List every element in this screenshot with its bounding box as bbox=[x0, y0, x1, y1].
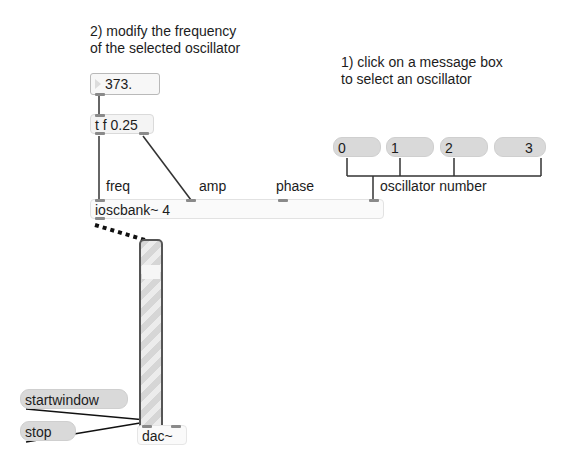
comment-step2-line2: of the selected oscillator bbox=[90, 40, 240, 57]
message-label: 1 bbox=[391, 140, 399, 156]
inlet[interactable] bbox=[95, 114, 105, 117]
outlet-left[interactable] bbox=[95, 132, 105, 135]
trigger-label: t f 0.25 bbox=[95, 117, 138, 133]
message-box-osc-2[interactable]: 2 bbox=[440, 137, 488, 157]
inlet-left[interactable] bbox=[142, 425, 152, 428]
message-box-stop[interactable]: stop bbox=[20, 421, 76, 441]
dac-label: dac~ bbox=[142, 428, 173, 444]
message-label: startwindow bbox=[25, 392, 99, 408]
comment-step1-line1: 1) click on a message box bbox=[341, 54, 503, 71]
dac-object[interactable]: dac~ bbox=[137, 425, 187, 445]
message-box-osc-0[interactable]: 0 bbox=[333, 137, 381, 157]
message-label: 0 bbox=[338, 140, 346, 156]
gain-slider[interactable] bbox=[139, 239, 163, 433]
outlet-right[interactable] bbox=[139, 132, 149, 135]
number-box-value: 373. bbox=[105, 74, 132, 94]
comment-oscillator-number: oscillator number bbox=[380, 178, 487, 195]
inlet-oscillator-number[interactable] bbox=[369, 199, 379, 202]
ioscbank-label: ioscbank~ 4 bbox=[95, 202, 170, 218]
message-box-startwindow[interactable]: startwindow bbox=[20, 389, 128, 409]
inlet-freq[interactable] bbox=[95, 199, 105, 202]
comment-phase: phase bbox=[276, 178, 314, 195]
number-box-triangle-icon bbox=[95, 79, 101, 89]
comment-freq: freq bbox=[106, 178, 130, 195]
trigger-object[interactable]: t f 0.25 bbox=[90, 114, 154, 134]
inlet-right[interactable] bbox=[171, 425, 181, 428]
patcher-canvas: 2) modify the frequency of the selected … bbox=[0, 0, 570, 465]
gain-slider-knob[interactable] bbox=[142, 265, 160, 279]
message-label: stop bbox=[25, 424, 51, 440]
outlet[interactable] bbox=[95, 93, 105, 96]
message-box-osc-3[interactable]: 3 bbox=[494, 137, 546, 157]
ioscbank-object[interactable]: ioscbank~ 4 bbox=[90, 199, 384, 219]
frequency-number-box[interactable]: 373. bbox=[90, 73, 160, 95]
message-box-osc-1[interactable]: 1 bbox=[386, 137, 434, 157]
comment-step1-line2: to select an oscillator bbox=[341, 71, 472, 88]
inlet-phase[interactable] bbox=[278, 199, 288, 202]
message-label: 2 bbox=[445, 140, 453, 156]
comment-step2-line1: 2) modify the frequency bbox=[90, 23, 236, 40]
comment-amp: amp bbox=[199, 178, 226, 195]
message-label: 3 bbox=[525, 140, 533, 156]
inlet-amp[interactable] bbox=[186, 199, 196, 202]
signal-outlet[interactable] bbox=[95, 217, 105, 220]
